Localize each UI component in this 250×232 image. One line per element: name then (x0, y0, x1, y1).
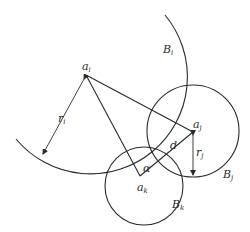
label-a-k: ak (137, 181, 148, 195)
segment-ai-aj (86, 75, 193, 132)
label-b-j: Bj (222, 168, 234, 182)
label-d: d (170, 139, 177, 152)
radius-r-i-arrow (43, 79, 84, 154)
segment-ai-ak (86, 75, 140, 176)
geometry-diagram: ai Bi ri aj d rj Bj α ak Bk (0, 0, 250, 232)
label-a-j: aj (193, 118, 203, 132)
label-b-i: Bi (162, 43, 173, 57)
label-alpha: α (143, 162, 151, 175)
label-r-j: rj (196, 146, 204, 160)
label-a-i: ai (82, 60, 91, 74)
circle-b-k (105, 147, 183, 225)
label-b-k: Bk (171, 198, 184, 212)
circle-b-i-arc (16, 15, 187, 174)
